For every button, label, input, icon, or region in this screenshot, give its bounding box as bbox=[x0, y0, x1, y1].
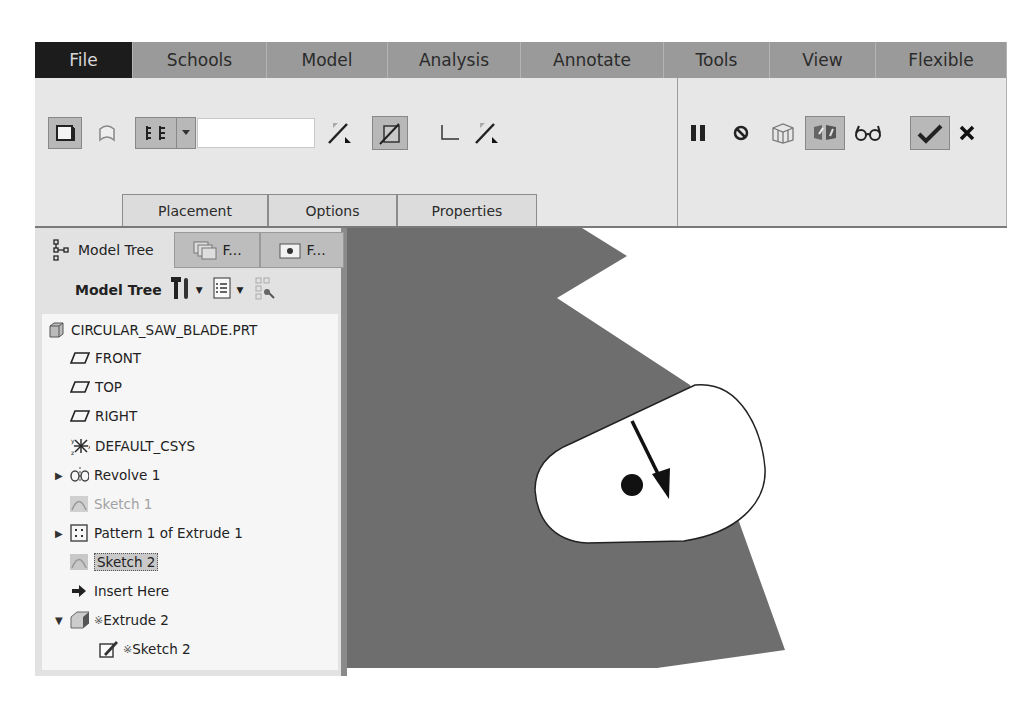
tab-model-tree[interactable]: Model Tree bbox=[38, 232, 174, 268]
menu-model[interactable]: Model bbox=[267, 42, 388, 78]
menu-flexible[interactable]: Flexible bbox=[876, 42, 1007, 78]
tree-item-front[interactable]: FRONT bbox=[70, 346, 141, 370]
extrude-icon bbox=[69, 611, 89, 629]
flip-material-side-button[interactable] bbox=[470, 117, 502, 149]
check-icon bbox=[916, 122, 944, 144]
tree-item-label: Sketch 1 bbox=[94, 496, 152, 512]
tab-options[interactable]: Options bbox=[268, 194, 397, 227]
ribbon-divider bbox=[677, 78, 678, 228]
sketch-icon bbox=[69, 553, 89, 571]
tree-item-label: FRONT bbox=[95, 350, 141, 366]
datum-plane-icon bbox=[70, 378, 90, 396]
in-progress-marker: ※ bbox=[123, 643, 132, 656]
expand-caret-icon[interactable]: ▶ bbox=[55, 528, 69, 539]
tree-filter-icon bbox=[254, 276, 276, 300]
verify-button[interactable] bbox=[852, 117, 884, 149]
tree-item-extrude-sketch-2[interactable]: ※ Sketch 2 bbox=[98, 637, 191, 661]
chevron-down-icon[interactable]: ▼ bbox=[196, 285, 203, 295]
tree-item-label: Revolve 1 bbox=[94, 467, 160, 483]
flip-direction-icon bbox=[325, 119, 353, 147]
cancel-button[interactable] bbox=[955, 119, 979, 147]
no-preview-button[interactable] bbox=[730, 119, 752, 147]
preview-mesh-button[interactable] bbox=[768, 117, 798, 149]
tree-filter-button[interactable] bbox=[254, 276, 276, 304]
svg-text:y: y bbox=[71, 437, 75, 445]
preview-mesh-icon bbox=[770, 121, 796, 145]
tree-item-label: Extrude 2 bbox=[103, 612, 169, 628]
tree-item-sketch-1[interactable]: Sketch 1 bbox=[69, 492, 152, 516]
pause-icon bbox=[689, 123, 707, 143]
tree-item-pattern-1[interactable]: ▶ Pattern 1 of Extrude 1 bbox=[55, 521, 243, 545]
datum-plane-icon bbox=[70, 407, 90, 425]
folder-browser-icon bbox=[192, 239, 218, 261]
sketch-center-point bbox=[621, 474, 643, 496]
svg-text:x: x bbox=[88, 443, 90, 450]
remove-material-button[interactable] bbox=[372, 116, 408, 150]
extrude-as-solid-button[interactable] bbox=[48, 117, 82, 149]
flip-depth-direction-button[interactable] bbox=[323, 117, 355, 149]
tree-item-label: Insert Here bbox=[94, 583, 169, 599]
svg-text:z: z bbox=[71, 449, 74, 456]
sketch-edit-icon bbox=[98, 640, 118, 658]
menu-analysis[interactable]: Analysis bbox=[388, 42, 521, 78]
tree-item-label: TOP bbox=[95, 379, 122, 395]
model-tree-icon bbox=[52, 239, 72, 261]
extrude-as-solid-icon bbox=[54, 123, 76, 143]
tree-item-extrude-2[interactable]: ▼ ※ Extrude 2 bbox=[55, 608, 169, 632]
menu-view[interactable]: View bbox=[770, 42, 876, 78]
tab-label: F... bbox=[222, 242, 241, 258]
tab-placement[interactable]: Placement bbox=[122, 194, 268, 227]
preview-solid-icon bbox=[811, 122, 839, 144]
tree-item-sketch-2-selected[interactable]: Sketch 2 bbox=[69, 550, 158, 574]
pause-button[interactable] bbox=[686, 119, 710, 147]
extrude-as-surface-icon bbox=[97, 123, 117, 143]
depth-option-button[interactable] bbox=[135, 117, 177, 149]
tab-favorites[interactable]: F... bbox=[260, 232, 344, 268]
list-icon bbox=[213, 277, 231, 299]
favorites-icon bbox=[278, 240, 302, 260]
depth-value-input[interactable] bbox=[197, 118, 315, 148]
confirm-button[interactable] bbox=[910, 116, 950, 150]
saw-blade-model-view bbox=[347, 228, 1027, 706]
tools-icon bbox=[170, 275, 190, 301]
menu-tools[interactable]: Tools bbox=[664, 42, 770, 78]
model-tree-toolbar: Model Tree ▼ ▼ bbox=[40, 272, 340, 308]
tree-item-label: DEFAULT_CSYS bbox=[95, 438, 195, 454]
collapse-caret-icon[interactable]: ▼ bbox=[55, 615, 69, 626]
depth-dropdown-button[interactable] bbox=[176, 117, 196, 149]
preview-solid-button[interactable] bbox=[805, 116, 845, 150]
show-menu-button[interactable] bbox=[213, 277, 231, 303]
pattern-icon bbox=[69, 524, 89, 542]
model-tree-title: Model Tree bbox=[75, 282, 162, 298]
menu-bar: FileSchoolsModelAnalysisAnnotateToolsVie… bbox=[35, 42, 1007, 78]
tree-item-top[interactable]: TOP bbox=[70, 375, 122, 399]
settings-button[interactable] bbox=[170, 275, 190, 305]
flip-direction-icon bbox=[472, 119, 500, 147]
tree-item-label: RIGHT bbox=[95, 408, 137, 424]
tree-item-label: Pattern 1 of Extrude 1 bbox=[94, 525, 243, 541]
menu-file[interactable]: File bbox=[35, 42, 133, 78]
revolve-icon bbox=[69, 466, 89, 484]
tree-item-revolve-1[interactable]: ▶ Revolve 1 bbox=[55, 463, 160, 487]
tree-item-right[interactable]: RIGHT bbox=[70, 404, 137, 428]
coordinate-system-icon: yzx bbox=[70, 437, 90, 455]
expand-caret-icon[interactable]: ▶ bbox=[55, 470, 69, 481]
tree-item-insert-here[interactable]: Insert Here bbox=[69, 579, 169, 603]
menu-annotate[interactable]: Annotate bbox=[521, 42, 664, 78]
glasses-icon bbox=[854, 123, 882, 143]
chevron-down-icon[interactable]: ▼ bbox=[237, 285, 244, 295]
thicken-sketch-button[interactable] bbox=[433, 117, 467, 149]
graphics-window[interactable] bbox=[347, 228, 1027, 706]
depth-option-icon bbox=[141, 123, 171, 143]
extrude-as-surface-button[interactable] bbox=[94, 117, 120, 149]
in-progress-marker: ※ bbox=[94, 614, 103, 627]
tab-properties[interactable]: Properties bbox=[397, 194, 537, 227]
no-preview-icon bbox=[732, 124, 750, 142]
part-icon bbox=[46, 321, 66, 339]
thicken-sketch-icon bbox=[438, 122, 462, 144]
tree-item-default-csys[interactable]: yzx DEFAULT_CSYS bbox=[70, 434, 195, 458]
menu-schools[interactable]: Schools bbox=[133, 42, 267, 78]
tree-item-part[interactable]: CIRCULAR_SAW_BLADE.PRT bbox=[46, 318, 257, 342]
tree-item-label: Sketch 2 bbox=[94, 553, 158, 571]
tab-folder-browser[interactable]: F... bbox=[174, 232, 260, 268]
